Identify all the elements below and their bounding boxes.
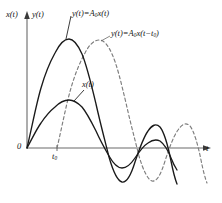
annotation-amplified-sub: 0 [95, 12, 98, 18]
annotation-shifted-close: ) [156, 28, 159, 38]
y-axis [24, 11, 30, 148]
tick-label-t0-sub: 0 [54, 155, 57, 161]
annotation-amplified-prefix: y(t)=A [72, 8, 95, 18]
x-axis-label: t [206, 144, 208, 153]
annotation-shifted-equation: y(t)=A0x(t−t0) [111, 29, 159, 38]
x-axis [27, 145, 211, 151]
annotation-amplified-equation: y(t)=A0x(t) [72, 9, 109, 18]
annotation-amplified-suffix: x(t) [97, 8, 109, 18]
leader-line-amplified [66, 16, 71, 39]
origin-label: 0 [17, 142, 21, 151]
tick-label-t0: t0 [52, 152, 57, 161]
leader-line-amplified-shifted [101, 36, 110, 41]
curve-input [27, 100, 177, 170]
annotation-shifted-sub2: 0 [153, 32, 156, 38]
y-axis-left-label: x(t) [6, 10, 18, 19]
annotation-input-signal: x(t) [82, 80, 94, 89]
annotation-shifted-prefix: y(t)=A [111, 28, 134, 38]
y-axis-right-label: y(t) [32, 10, 44, 19]
figure-container: x(t) y(t) 0 t t0 y(t)=A0x(t) y(t)=A0x(t−… [0, 0, 222, 203]
annotation-shifted-sub: 0 [134, 32, 137, 38]
leader-line-input [74, 90, 84, 101]
annotation-shifted-suffix: x(t−t [136, 28, 153, 38]
